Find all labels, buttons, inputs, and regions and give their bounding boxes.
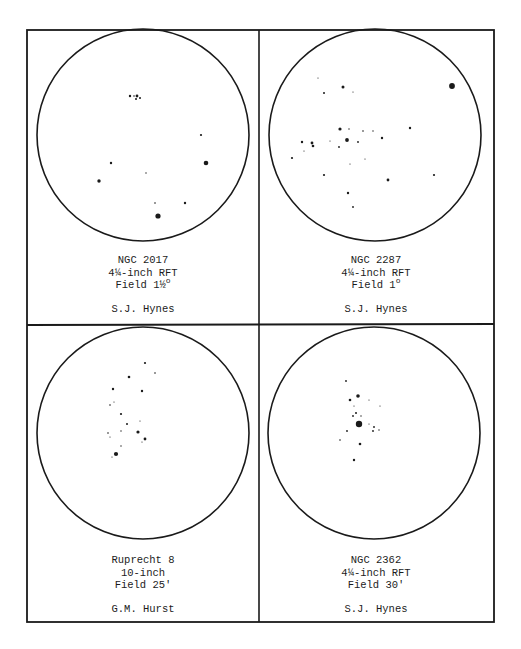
star-dot xyxy=(133,95,135,97)
star-dot xyxy=(144,438,147,441)
object-name: NGC 2362 xyxy=(260,554,492,567)
star-dot xyxy=(379,405,380,406)
field-size: Field 1 xyxy=(352,279,396,291)
star-dot xyxy=(368,399,369,400)
observer-name: S.J. Hynes xyxy=(260,603,492,616)
star-dot xyxy=(135,98,137,100)
field-circle xyxy=(37,29,249,241)
star-dot xyxy=(323,174,325,176)
star-dot xyxy=(372,130,373,131)
star-dot xyxy=(139,420,140,421)
star-dot xyxy=(107,432,109,434)
eyepiece-field-4 xyxy=(268,327,480,539)
star-dot xyxy=(353,405,354,406)
field-circle xyxy=(268,327,480,539)
star-dot xyxy=(139,97,141,99)
star-dot xyxy=(352,415,354,417)
star-dot xyxy=(109,436,110,437)
instrument: 4¼-inch RFT xyxy=(27,267,259,280)
star-dot xyxy=(348,128,349,129)
star-dot xyxy=(356,421,362,427)
star-dot xyxy=(312,145,315,148)
star-dot xyxy=(353,459,355,461)
star-dot xyxy=(154,202,156,204)
field-size: Field 25' xyxy=(115,579,172,591)
star-dot xyxy=(347,192,349,194)
star-dot xyxy=(145,172,146,173)
object-name: NGC 2017 xyxy=(27,254,259,267)
star-dot xyxy=(329,140,330,141)
star-dot xyxy=(141,390,143,392)
star-dot xyxy=(136,430,139,433)
star-dot xyxy=(200,134,202,136)
star-dot xyxy=(323,92,325,94)
star-dot xyxy=(338,127,341,130)
panel-caption-4: NGC 2362 4¼-inch RFT Field 30' S.J. Hyne… xyxy=(260,554,492,615)
star-dot xyxy=(184,202,186,204)
star-dot xyxy=(368,423,369,424)
star-dot xyxy=(109,404,111,406)
field-circle xyxy=(269,29,481,241)
field-size: Field 1½ xyxy=(115,279,165,291)
star-dot xyxy=(360,415,361,416)
instrument: 4¼-inch RFT xyxy=(260,567,492,580)
star-dot xyxy=(120,430,121,431)
star-dot xyxy=(113,401,114,402)
star-dot xyxy=(352,91,353,92)
star-dot xyxy=(362,130,364,132)
star-dot xyxy=(141,441,142,442)
panel-caption-2: NGC 2287 4¼-inch RFT Field 1o S.J. Hynes xyxy=(260,254,492,315)
star-dot xyxy=(381,137,383,139)
star-dot xyxy=(433,174,435,176)
star-dot xyxy=(128,376,131,379)
star-dot xyxy=(291,157,293,159)
star-dot xyxy=(154,372,156,374)
star-dot xyxy=(342,86,345,89)
star-dot xyxy=(372,430,374,432)
star-dot xyxy=(449,83,455,89)
drawing-grid xyxy=(0,0,521,649)
star-dot xyxy=(349,399,352,402)
star-dot xyxy=(355,412,357,414)
observer-name: G.M. Hurst xyxy=(27,603,259,616)
star-dot xyxy=(136,95,139,98)
instrument: 4¼-inch RFT xyxy=(260,267,492,280)
star-dot xyxy=(357,141,359,143)
star-dot xyxy=(338,146,340,148)
star-dot xyxy=(97,179,100,182)
star-dot xyxy=(339,439,341,441)
star-dot xyxy=(356,394,360,398)
star-dot xyxy=(112,388,114,390)
star-dot xyxy=(301,141,303,143)
star-dot xyxy=(311,142,314,145)
field-circle xyxy=(37,327,249,539)
star-dot xyxy=(111,456,112,457)
star-dot xyxy=(317,77,318,78)
observer-name: S.J. Hynes xyxy=(260,303,492,316)
horizontal-divider xyxy=(27,324,494,325)
eyepiece-field-3 xyxy=(37,327,249,539)
star-dot xyxy=(129,95,131,97)
star-dot xyxy=(409,127,411,129)
star-dot xyxy=(303,150,304,151)
star-dot xyxy=(204,161,209,166)
instrument: 10-inch xyxy=(27,567,259,580)
star-dot xyxy=(345,380,347,382)
star-dot xyxy=(120,413,122,415)
panel-caption-3: Ruprecht 8 10-inch Field 25' G.M. Hurst xyxy=(27,554,259,615)
star-dot xyxy=(144,362,146,364)
object-name: Ruprecht 8 xyxy=(27,554,259,567)
field-size: Field 30' xyxy=(348,579,405,591)
degree-mark: o xyxy=(166,276,171,285)
star-dot xyxy=(359,443,362,446)
star-dot xyxy=(373,426,375,428)
star-dot xyxy=(349,163,350,164)
star-dot xyxy=(364,158,365,159)
star-dot xyxy=(387,179,390,182)
panel-caption-1: NGC 2017 4¼-inch RFT Field 1½o S.J. Hyne… xyxy=(27,254,259,315)
eyepiece-field-2 xyxy=(269,29,481,241)
star-dot xyxy=(352,206,354,208)
star-dot xyxy=(345,138,349,142)
eyepiece-field-1 xyxy=(37,29,249,241)
star-dot xyxy=(114,452,118,456)
